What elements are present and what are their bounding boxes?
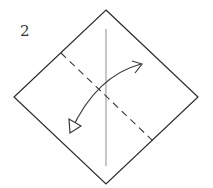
fold-arrowhead-open-icon (132, 61, 142, 73)
unfold-arrowhead-hollow-icon (69, 119, 81, 133)
origami-diagram (0, 0, 213, 188)
